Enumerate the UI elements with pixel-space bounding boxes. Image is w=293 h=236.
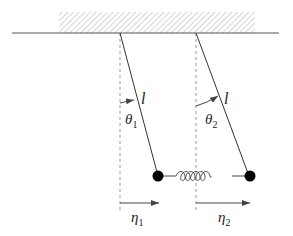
pendulum-bob-right — [245, 171, 256, 182]
spring — [176, 172, 211, 181]
eta1-label: η1 — [131, 209, 143, 228]
angle-arc-right — [196, 96, 218, 106]
eta2-label: η2 — [218, 209, 230, 228]
theta1-label: θ1 — [125, 111, 137, 130]
angle-arc-left — [120, 100, 134, 103]
pendulum-bob-left — [153, 171, 164, 182]
pendulum-rod-left — [120, 33, 158, 176]
coupled-pendulum-diagram: l l θ1 θ2 η1 η2 — [0, 0, 293, 236]
diagram-svg: l l θ1 θ2 η1 η2 — [0, 0, 293, 236]
pendulum-rod-right — [196, 33, 249, 176]
theta2-label: θ2 — [205, 111, 217, 130]
length-label-right: l — [224, 90, 229, 107]
length-label-left: l — [141, 90, 146, 107]
ceiling-hatch — [59, 12, 255, 33]
